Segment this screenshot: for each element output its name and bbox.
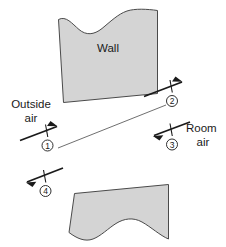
station-3-arrow-head bbox=[153, 135, 164, 140]
wall-label: Wall bbox=[97, 42, 119, 54]
outside-air-label: Outside air bbox=[11, 98, 51, 124]
station-2-arrow-head bbox=[172, 77, 183, 82]
station-4-number: 4 bbox=[43, 186, 48, 196]
airflow-divider-line bbox=[58, 105, 166, 148]
station-1-arrow-head bbox=[47, 121, 58, 126]
station-3-group: 3 bbox=[153, 122, 190, 150]
lower-wall-shape bbox=[69, 185, 169, 241]
station-2-number: 2 bbox=[170, 96, 175, 106]
outside-air-label-line2: air bbox=[25, 112, 38, 124]
station-1-number: 1 bbox=[45, 141, 50, 151]
station-4-arrow-head bbox=[26, 182, 37, 187]
room-air-label: Room air bbox=[186, 122, 217, 148]
station-1-arrow-line bbox=[20, 127, 57, 141]
outside-air-label-line1: Outside bbox=[11, 98, 51, 110]
wall-airflow-diagram: Wall with outside air and room air flow … bbox=[0, 0, 226, 247]
room-air-label-line2: air bbox=[197, 136, 210, 148]
room-air-label-line1: Room bbox=[186, 122, 217, 134]
station-1-group: 1 bbox=[20, 121, 58, 151]
diagram-container: Wall with outside air and room air flow … bbox=[0, 0, 226, 247]
upper-wall-shape bbox=[59, 9, 158, 102]
station-4-group: 4 bbox=[26, 168, 63, 197]
station-3-number: 3 bbox=[170, 140, 175, 150]
